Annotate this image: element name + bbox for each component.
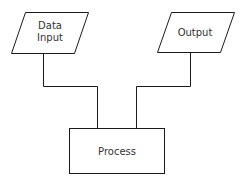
connector-data-input-to-process [44,53,98,128]
data-input-label-line-2: Input [25,32,75,44]
process-label: Process [69,146,165,158]
data-input-label: Data Input [25,20,75,44]
output-label: Output [170,27,220,39]
connector-output-to-process [137,52,191,128]
data-input-label-line-1: Data [25,20,75,32]
